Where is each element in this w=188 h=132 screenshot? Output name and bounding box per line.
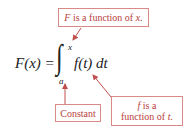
lower-limit: a (59, 76, 64, 86)
arrow-right-to-f (93, 75, 111, 97)
annotation-arg: x. (136, 12, 143, 23)
lhs-text: F(x) = (15, 55, 55, 71)
annotation-text: function of (121, 111, 168, 122)
lower-limit-text: a (59, 76, 64, 86)
annotation-line-2: function of t. (112, 111, 182, 122)
annotation-text: is a (140, 100, 156, 111)
annotation-line-1: f is a (112, 100, 182, 111)
constant-label: Constant (60, 108, 96, 119)
arrow-top-to-F (73, 28, 81, 40)
annotation-F-is-function-of-x: F is a function of x. (58, 8, 149, 27)
annotation-constant: Constant (55, 104, 101, 122)
upper-limit-text: x (68, 42, 72, 52)
integrand-text: f(t) dt (74, 55, 108, 71)
integral-sign: ∫ (56, 38, 63, 76)
annotation-text: is a function of (70, 12, 135, 23)
annotation-f-is-function-of-t: f is a function of t. (111, 96, 183, 126)
equation-lhs: F(x) = (15, 55, 55, 72)
integrand: f(t) dt (74, 55, 108, 72)
upper-limit: x (68, 42, 72, 52)
annotation-arg: t. (168, 111, 173, 122)
